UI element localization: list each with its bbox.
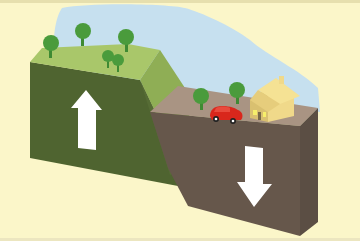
house-window [253, 110, 257, 115]
house-window [263, 112, 266, 117]
fault-diagram [0, 0, 360, 241]
top-border [0, 0, 360, 3]
house-door [258, 112, 261, 120]
downthrown-block-side [300, 108, 318, 236]
